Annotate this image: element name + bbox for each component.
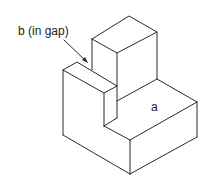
label-a: a — [151, 101, 158, 113]
step-front-edge — [104, 126, 130, 140]
left-wall-top-face — [63, 62, 117, 93]
gap-floor-edge — [104, 118, 117, 126]
label-b: b (in gap) — [18, 25, 69, 37]
bottom-left-edge — [63, 135, 130, 174]
tall-block-top-face — [92, 16, 157, 53]
step-back-edge — [117, 79, 157, 101]
bottom-right-edge — [130, 137, 197, 174]
step-front-right-edge — [130, 102, 197, 140]
step-right-back-edge — [157, 79, 197, 102]
